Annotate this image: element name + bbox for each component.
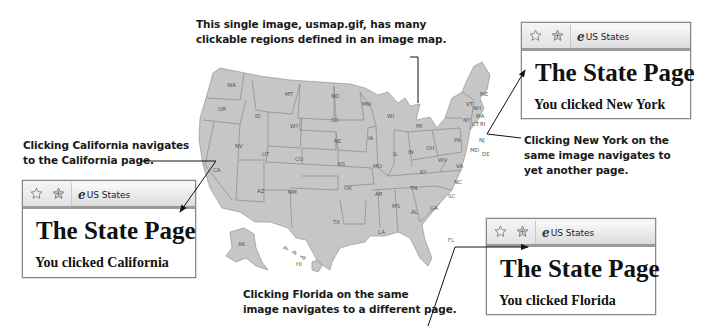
page-message: You clicked New York	[534, 97, 690, 113]
svg-text:IA: IA	[368, 135, 374, 141]
svg-text:OH: OH	[426, 145, 434, 151]
svg-text:ME: ME	[480, 91, 489, 97]
svg-text:DE: DE	[482, 151, 490, 157]
svg-text:WA: WA	[227, 82, 236, 88]
tab-label: US States	[586, 32, 630, 42]
page-heading: The State Page	[500, 255, 655, 283]
svg-text:NC: NC	[454, 179, 462, 185]
svg-text:NH: NH	[473, 105, 481, 111]
svg-text:OK: OK	[344, 185, 352, 191]
star-plus-icon[interactable]	[49, 185, 67, 203]
svg-text:VA: VA	[456, 163, 463, 169]
svg-text:LA: LA	[378, 229, 385, 235]
callout-line: Clicking California navigates	[23, 138, 189, 153]
browser-window-new-york: e US States The State Page You clicked N…	[521, 22, 691, 119]
star-icon[interactable]	[491, 223, 509, 241]
svg-text:KS: KS	[338, 161, 346, 167]
svg-text:KY: KY	[420, 169, 427, 175]
callout-line: image navigates to a different page.	[243, 302, 457, 317]
svg-text:MI: MI	[416, 123, 423, 129]
browser-toolbar: e US States	[522, 23, 690, 51]
browser-toolbar: e US States	[23, 181, 195, 209]
svg-text:NV: NV	[235, 143, 243, 149]
svg-text:CT: CT	[472, 121, 480, 127]
callout-florida: Clicking Florida on the same image navig…	[243, 287, 457, 317]
alaska-shape	[226, 228, 268, 270]
callout-new-york: Clicking New York on the same image navi…	[524, 133, 671, 178]
svg-text:OR: OR	[218, 106, 226, 112]
ie-page-icon: e	[542, 226, 550, 240]
ie-page-icon: e	[78, 188, 86, 202]
callout-line: same image navigates to	[524, 148, 671, 163]
browser-window-florida: e US States The State Page You clicked F…	[486, 218, 656, 315]
svg-text:MO: MO	[373, 163, 383, 169]
svg-text:SD: SD	[331, 117, 339, 123]
svg-text:RI: RI	[480, 121, 486, 127]
svg-text:AL: AL	[411, 209, 419, 215]
svg-text:GA: GA	[430, 205, 438, 211]
tab-label: US States	[551, 228, 595, 238]
svg-text:HI: HI	[296, 261, 302, 267]
svg-text:PA: PA	[454, 137, 461, 143]
callout-line: This single image, usmap.gif, has many	[196, 17, 446, 32]
page-message: You clicked Florida	[499, 293, 655, 309]
ie-page-icon: e	[577, 30, 585, 44]
svg-text:MN: MN	[362, 101, 371, 107]
svg-text:FL: FL	[448, 237, 455, 243]
svg-text:CO: CO	[295, 156, 304, 162]
page-heading: The State Page	[535, 59, 690, 87]
svg-text:WI: WI	[387, 113, 394, 119]
svg-text:NM: NM	[288, 189, 297, 195]
svg-text:WV: WV	[438, 157, 447, 163]
svg-text:WY: WY	[290, 123, 299, 129]
browser-tab[interactable]: e US States	[570, 25, 690, 48]
svg-text:AK: AK	[238, 241, 246, 247]
browser-tab[interactable]: e US States	[71, 183, 195, 206]
svg-text:NY: NY	[463, 117, 471, 123]
svg-text:NJ: NJ	[479, 137, 485, 144]
page-heading: The State Page	[36, 217, 195, 245]
svg-text:SC: SC	[448, 193, 455, 199]
svg-text:MA: MA	[476, 113, 485, 119]
svg-text:AR: AR	[375, 191, 383, 197]
svg-text:MT: MT	[285, 91, 294, 97]
browser-tab[interactable]: e US States	[535, 221, 655, 244]
svg-text:TX: TX	[332, 219, 340, 225]
callout-california: Clicking California navigates to the Cal…	[23, 138, 189, 168]
svg-text:CA: CA	[213, 167, 221, 173]
star-icon[interactable]	[526, 27, 544, 45]
page-message: You clicked California	[35, 255, 195, 271]
svg-text:UT: UT	[262, 151, 270, 157]
tab-label: US States	[87, 190, 131, 200]
svg-text:TN: TN	[409, 185, 417, 191]
svg-text:MS: MS	[392, 203, 401, 209]
callout-line: Clicking New York on the	[524, 133, 671, 148]
star-icon[interactable]	[27, 185, 45, 203]
svg-text:NE: NE	[334, 138, 342, 144]
svg-text:ID: ID	[255, 113, 261, 119]
callout-line: clickable regions defined in an image ma…	[196, 32, 446, 47]
browser-window-california: e US States The State Page You clicked C…	[22, 180, 196, 278]
star-plus-icon[interactable]	[513, 223, 531, 241]
svg-text:MD: MD	[470, 147, 479, 153]
svg-text:ND: ND	[331, 93, 339, 99]
star-plus-icon[interactable]	[548, 27, 566, 45]
callout-line: to the California page.	[23, 153, 189, 168]
browser-toolbar: e US States	[487, 219, 655, 247]
svg-text:IN: IN	[408, 149, 414, 155]
callout-line: yet another page.	[524, 163, 671, 178]
callout-image-map: This single image, usmap.gif, has many c…	[196, 17, 446, 47]
svg-text:AZ: AZ	[257, 188, 265, 194]
callout-line: Clicking Florida on the same	[243, 287, 457, 302]
